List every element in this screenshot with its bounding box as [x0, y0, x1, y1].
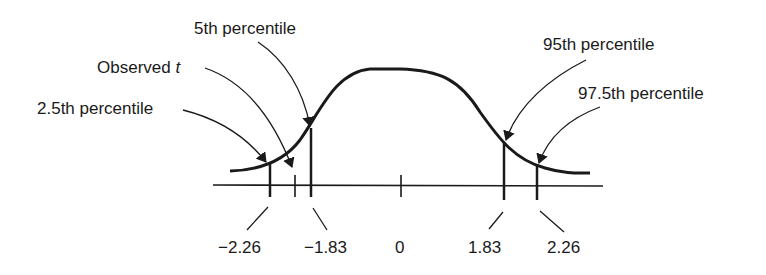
arrow-2-5th-percentile — [183, 110, 266, 162]
label-observed-prefix: Observed — [97, 58, 175, 77]
label-observed-t: Observed t — [97, 58, 181, 77]
leader-neg-1-83 — [313, 208, 327, 230]
tick-label-neg-1-83: −1.83 — [304, 238, 347, 257]
tick-label-neg-2-26: −2.26 — [218, 238, 261, 257]
density-curve — [230, 69, 590, 173]
arrow-observed-t — [205, 68, 292, 167]
leader-neg-2-26 — [247, 207, 268, 230]
tick-label-zero: 0 — [395, 238, 404, 257]
label-5th-percentile: 5th percentile — [194, 19, 296, 38]
tick-label-pos-1-83: 1.83 — [468, 238, 501, 257]
label-2-5th-percentile: 2.5th percentile — [37, 99, 153, 118]
leader-pos-1-83 — [489, 212, 503, 229]
t-distribution-diagram: −2.26 −1.83 0 1.83 2.26 5th percentile O… — [0, 0, 766, 275]
arrow-95th-percentile — [506, 60, 586, 140]
arrow-5th-percentile — [258, 42, 310, 126]
arrow-97-5th-percentile — [539, 107, 600, 163]
tick-label-pos-2-26: 2.26 — [547, 238, 580, 257]
x-axis — [213, 185, 603, 186]
label-97-5th-percentile: 97.5th percentile — [578, 84, 704, 103]
leader-pos-2-26 — [540, 211, 564, 232]
label-95th-percentile: 95th percentile — [543, 35, 655, 54]
label-observed-var: t — [175, 58, 181, 77]
